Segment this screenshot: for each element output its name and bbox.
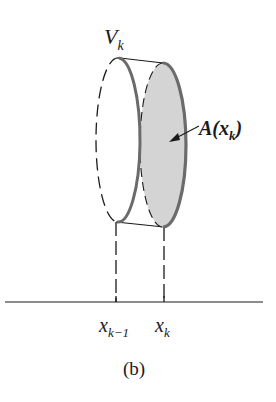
volume-label: Vk [104,24,124,50]
volume-label-subscript: k [117,38,123,53]
axis-label-subscript: k [164,325,170,340]
axis-label-xk: xk [155,314,170,337]
slab-volume-figure: Vk A(xk) xk−1 xk (b) [0,0,276,402]
axis-label-xk-minus-1: xk−1 [99,314,129,337]
axis-label-subscript: k−1 [108,325,129,340]
slab-diagram [0,0,276,402]
area-label-main: A(x [199,117,229,139]
area-label: A(xk) [199,117,242,140]
area-label-subscript: k [229,128,236,143]
area-label-close: ) [236,117,243,139]
axis-label-main: x [155,314,164,336]
axis-label-main: x [99,314,108,336]
left-face-dashed-edge [96,58,119,222]
left-face-rim [117,58,140,222]
figure-caption: (b) [123,358,145,380]
volume-label-main: V [104,24,117,49]
